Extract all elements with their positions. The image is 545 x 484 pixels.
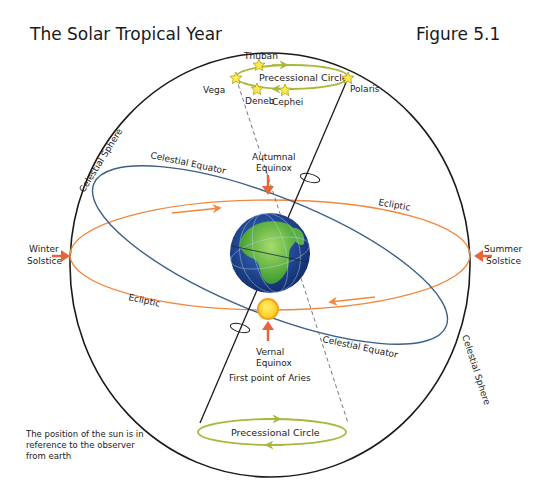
winter-solstice-label-1: Winter xyxy=(29,244,59,254)
ecliptic-label-right: Ecliptic xyxy=(378,197,412,212)
star-icon xyxy=(279,84,291,96)
celestial-equator-label-bottom: Celestial Equator xyxy=(322,334,400,360)
star-label: Deneb xyxy=(245,96,275,106)
solar-tropical-year-diagram: The Solar Tropical Year Figure 5.1 Celes… xyxy=(0,0,545,484)
precessional-circle-label-top: Precessional Circle xyxy=(259,72,348,83)
celestial-equator-label-top: Celestial Equator xyxy=(150,150,228,176)
winter-solstice-label-2: Solstice xyxy=(27,256,62,266)
celestial-sphere-label-bottom: Celestial Sphere xyxy=(460,334,492,407)
vernal-equinox-label-2: Equinox xyxy=(256,358,293,368)
autumnal-equinox-label-2: Equinox xyxy=(256,163,293,173)
note-line-2: reference to the observer xyxy=(26,440,135,450)
summer-solstice-label-1: Summer xyxy=(484,244,522,254)
autumnal-equinox-label-1: Autumnal xyxy=(252,152,296,162)
star-cephei: Cephei xyxy=(272,84,303,107)
star-thuban: Thuban xyxy=(243,51,278,71)
figure-label: Figure 5.1 xyxy=(416,24,500,44)
star-label: Thuban xyxy=(243,51,278,61)
diagram-title: The Solar Tropical Year xyxy=(29,24,222,44)
summer-solstice-label-2: Solstice xyxy=(486,256,521,266)
vernal-equinox-label-1: Vernal xyxy=(256,347,284,357)
ecliptic-direction-arrow-left xyxy=(172,208,220,213)
star-vega: Vega xyxy=(203,72,242,95)
note-line-3: from earth xyxy=(26,451,71,461)
star-label: Vega xyxy=(203,85,225,95)
sun-icon xyxy=(258,299,278,319)
star-label: Polaris xyxy=(350,84,380,94)
precessional-circle-label-bottom: Precessional Circle xyxy=(231,427,320,438)
ecliptic-label-left: Ecliptic xyxy=(128,292,162,309)
vernal-equinox-arrow-icon xyxy=(262,321,274,330)
ecliptic-direction-arrow-right xyxy=(330,297,375,302)
note-line-1: The position of the sun is in xyxy=(25,429,144,439)
celestial-sphere-label-top: Celestial Sphere xyxy=(77,126,124,194)
first-point-of-aries-label: First point of Aries xyxy=(229,373,311,383)
winter-solstice-arrow-icon xyxy=(61,250,70,262)
earth xyxy=(228,208,312,299)
rotation-indicator-bottom xyxy=(229,322,250,335)
summer-solstice-arrow-icon xyxy=(474,250,483,262)
star-label: Cephei xyxy=(272,97,303,107)
